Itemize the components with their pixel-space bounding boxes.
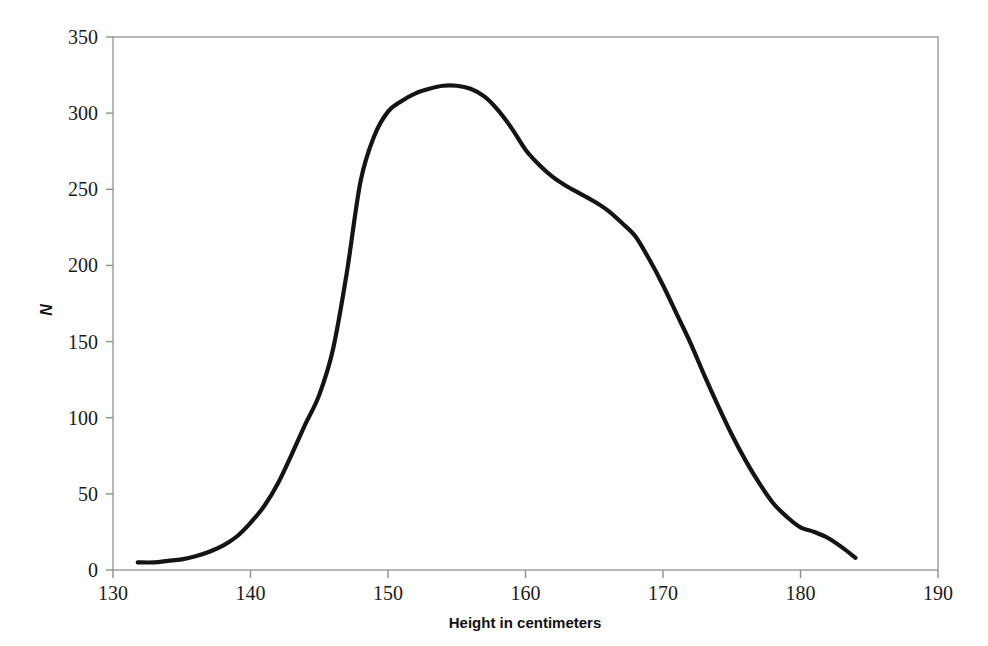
chart-figure: 0 50 100 150 200 250 300 350 130 140 150… xyxy=(0,0,988,646)
plot-background xyxy=(113,37,938,570)
x-axis-ticks xyxy=(113,570,938,578)
x-tick-label-180: 180 xyxy=(786,582,816,604)
distribution-line-chart: 0 50 100 150 200 250 300 350 130 140 150… xyxy=(0,0,988,646)
x-tick-label-160: 160 xyxy=(511,582,541,604)
x-tick-label-170: 170 xyxy=(648,582,678,604)
y-axis-tick-labels: 0 50 100 150 200 250 300 350 xyxy=(68,26,98,581)
x-axis-tick-labels: 130 140 150 160 170 180 190 xyxy=(98,582,953,604)
y-tick-label-150: 150 xyxy=(68,331,98,353)
x-tick-label-150: 150 xyxy=(373,582,403,604)
y-tick-label-300: 300 xyxy=(68,102,98,124)
y-axis-title: N xyxy=(38,304,55,316)
y-tick-label-100: 100 xyxy=(68,407,98,429)
y-axis-ticks xyxy=(106,37,113,570)
y-tick-label-350: 350 xyxy=(68,26,98,48)
x-axis-title: Height in centimeters xyxy=(449,614,602,631)
x-tick-label-190: 190 xyxy=(923,582,953,604)
y-tick-label-200: 200 xyxy=(68,254,98,276)
y-tick-label-250: 250 xyxy=(68,178,98,200)
x-tick-label-130: 130 xyxy=(98,582,128,604)
x-tick-label-140: 140 xyxy=(236,582,266,604)
y-tick-label-50: 50 xyxy=(78,483,98,505)
y-tick-label-0: 0 xyxy=(88,559,98,581)
